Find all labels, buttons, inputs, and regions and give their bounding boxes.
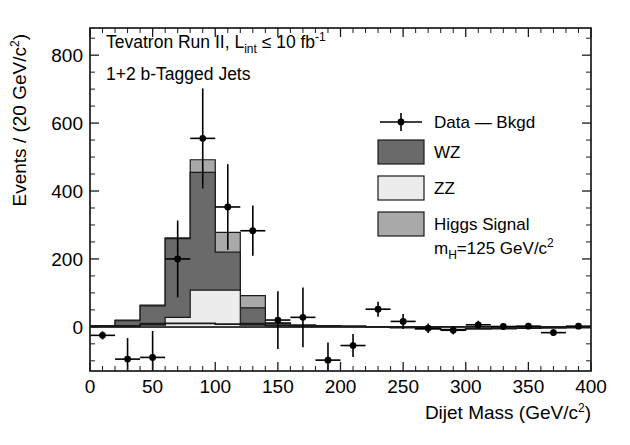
- data-points-group: [90, 88, 591, 383]
- data-point-marker: [124, 356, 131, 363]
- x-axis-title: Dijet Mass (GeV/c2): [425, 401, 591, 423]
- x-tick-label: 350: [513, 376, 545, 397]
- data-point-marker: [350, 342, 357, 349]
- data-point-marker: [450, 327, 457, 334]
- data-point-marker: [99, 332, 106, 339]
- data-point-marker: [224, 204, 231, 211]
- y-tick-label: 200: [51, 249, 83, 270]
- data-point-marker: [174, 256, 181, 263]
- legend-label-higgs-mass: mH=125 GeV/c2: [434, 236, 554, 262]
- legend-label-zz: ZZ: [434, 179, 455, 198]
- data-point-marker: [199, 135, 206, 142]
- legend-swatch-zz: [378, 176, 424, 200]
- legend-label-wz: WZ: [434, 143, 460, 162]
- legend-label-data: Data — Bkgd: [434, 113, 535, 132]
- x-tick-label: 200: [325, 376, 357, 397]
- data-point-marker: [274, 317, 281, 324]
- data-point-marker: [575, 323, 582, 330]
- data-point-marker: [550, 329, 557, 336]
- data-point-marker: [375, 306, 382, 313]
- legend-label-higgs-signal: Higgs Signal: [434, 215, 529, 234]
- data-point-marker: [525, 323, 532, 330]
- data-point-marker: [500, 323, 507, 330]
- x-tick-label: 100: [199, 376, 231, 397]
- x-tick-label: 0: [85, 376, 96, 397]
- data-point-marker: [300, 314, 307, 321]
- x-tick-label: 50: [142, 376, 163, 397]
- y-tick-label: 400: [51, 181, 83, 202]
- annotation-luminosity: Tevatron Run II, Lint ≤ 10 fb-1: [106, 30, 326, 56]
- data-point-marker: [400, 318, 407, 325]
- x-tick-label: 250: [387, 376, 419, 397]
- annotation-btag-selection: 1+2 b-Tagged Jets: [106, 64, 251, 84]
- x-tick-label: 150: [262, 376, 294, 397]
- y-tick-label: 0: [72, 317, 83, 338]
- x-tick-label: 300: [450, 376, 482, 397]
- y-tick-label: 600: [51, 113, 83, 134]
- physics-plot-figure: 0501001502002503003504000200400600800Dij…: [0, 0, 630, 445]
- data-point-marker: [325, 357, 332, 364]
- legend-swatch-higgs-signal: [378, 212, 424, 236]
- dijet-mass-chart: 0501001502002503003504000200400600800Dij…: [0, 0, 630, 445]
- legend-swatch-wz: [378, 140, 424, 164]
- data-point-marker: [249, 227, 256, 234]
- data-point-marker: [149, 354, 156, 361]
- x-tick-label: 400: [575, 376, 607, 397]
- legend-data-marker: [398, 119, 405, 126]
- data-point-marker: [475, 321, 482, 328]
- y-axis-title: Events / (20 GeV/c2): [8, 34, 30, 206]
- y-tick-label: 800: [51, 45, 83, 66]
- data-point-marker: [425, 325, 432, 332]
